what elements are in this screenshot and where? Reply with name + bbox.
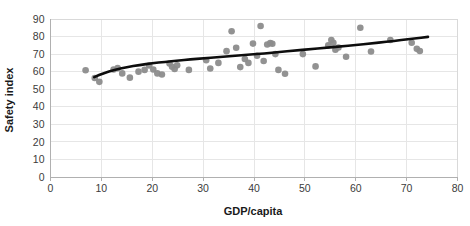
data-point (207, 65, 214, 72)
data-point (96, 79, 103, 86)
y-tick-label: 60 (33, 65, 45, 77)
data-point (215, 60, 222, 67)
data-point (119, 70, 126, 77)
chart-background (0, 0, 470, 226)
x-tick-label: 70 (401, 182, 413, 194)
data-point (228, 28, 235, 35)
data-point (82, 67, 89, 74)
y-tick-label: 90 (33, 13, 45, 25)
y-axis-title: Safety index (3, 67, 15, 133)
y-tick-label: 20 (33, 136, 45, 148)
data-point (357, 24, 364, 31)
y-tick-label: 10 (33, 153, 45, 165)
x-tick-label: 10 (96, 182, 108, 194)
data-point (343, 53, 350, 60)
x-tick-label: 30 (197, 182, 209, 194)
data-point (312, 63, 319, 70)
y-tick-label: 80 (33, 30, 45, 42)
y-tick-label: 40 (33, 100, 45, 112)
data-point (260, 58, 267, 65)
scatter-chart: 01020304050607080 0102030405060708090 GD… (0, 0, 470, 226)
data-point (282, 70, 289, 77)
data-point (174, 62, 181, 69)
data-point (135, 68, 142, 75)
data-point (300, 51, 307, 58)
x-tick-label: 40 (248, 182, 260, 194)
data-point (127, 74, 134, 81)
data-point (330, 39, 337, 46)
data-point (275, 67, 282, 74)
data-point (237, 64, 244, 71)
data-point (186, 67, 193, 74)
data-point (417, 48, 424, 55)
y-tick-label: 70 (33, 48, 45, 60)
x-tick-label: 50 (299, 182, 311, 194)
y-tick-label: 0 (39, 171, 45, 183)
data-point (250, 40, 257, 47)
data-point (368, 48, 375, 55)
x-tick-label: 20 (146, 182, 158, 194)
data-point (159, 71, 166, 78)
x-tick-label: 0 (48, 182, 54, 194)
y-tick-label: 30 (33, 118, 45, 130)
chart-canvas: 01020304050607080 0102030405060708090 GD… (0, 0, 470, 226)
data-point (233, 44, 240, 51)
x-tick-label: 60 (350, 182, 362, 194)
data-point (257, 23, 264, 30)
data-point (223, 48, 230, 55)
x-tick-label: 80 (452, 182, 464, 194)
y-tick-label: 50 (33, 83, 45, 95)
data-point (245, 60, 252, 67)
x-axis-title: GDP/capita (224, 205, 284, 217)
data-point (269, 40, 276, 47)
